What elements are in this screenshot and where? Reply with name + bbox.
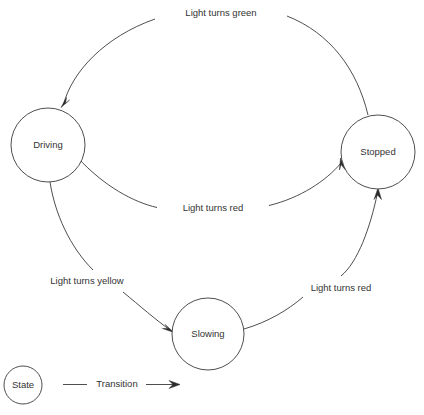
transition-driving-to-stopped[interactable]: Light turns red: [78, 158, 345, 213]
legend-state-label: State: [12, 379, 34, 390]
legend-transition-key: Transition: [63, 378, 180, 389]
legend-state-key: State: [4, 366, 42, 404]
transition-label-driving-to-slowing: Light turns yellow: [50, 275, 124, 286]
transition-slowing-to-stopped[interactable]: Light turns red: [244, 188, 382, 329]
legend-transition-label: Transition: [96, 378, 137, 389]
transition-stopped-to-driving[interactable]: Light turns green: [61, 7, 368, 115]
transition-driving-to-slowing-path-upper: [50, 182, 93, 270]
state-node-stopped[interactable]: Stopped: [341, 115, 415, 189]
state-diagram-canvas: Light turns green Light turns red Light …: [0, 0, 424, 415]
transition-driving-to-stopped-path-left: [78, 158, 157, 208]
state-label-slowing: Slowing: [191, 328, 224, 339]
transition-label-driving-to-stopped: Light turns red: [183, 202, 244, 213]
state-label-stopped: Stopped: [360, 146, 395, 157]
transition-slowing-to-stopped-path-upper: [341, 193, 378, 276]
diagram-svg: Light turns green Light turns red Light …: [0, 0, 424, 415]
transition-label-stopped-to-driving: Light turns green: [185, 7, 256, 18]
state-node-slowing[interactable]: Slowing: [172, 298, 244, 370]
transition-slowing-to-stopped-path-lower: [244, 297, 303, 329]
state-label-driving: Driving: [33, 139, 63, 150]
transition-stopped-to-driving-path-right: [287, 16, 368, 115]
transition-stopped-to-driving-path-left: [64, 19, 156, 105]
state-node-driving[interactable]: Driving: [11, 108, 85, 182]
transition-driving-to-stopped-path-right: [269, 163, 341, 206]
arrowhead-into-stopped-from-slowing: [374, 188, 382, 200]
legend: State Transition: [4, 366, 180, 404]
transition-driving-to-slowing-path-lower: [123, 292, 170, 330]
transition-label-slowing-to-stopped: Light turns red: [311, 282, 372, 293]
transition-driving-to-slowing[interactable]: Light turns yellow: [50, 182, 174, 333]
